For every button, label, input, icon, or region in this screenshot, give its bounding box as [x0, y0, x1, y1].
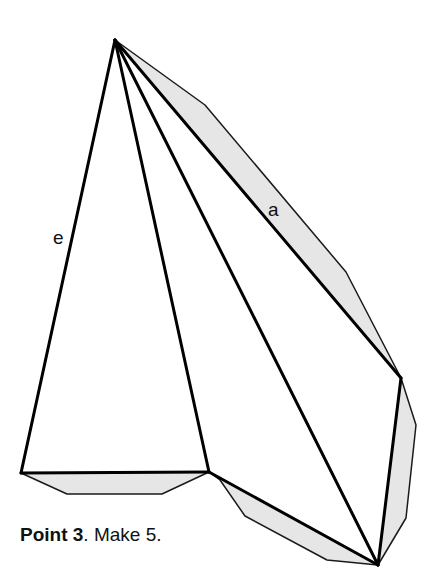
net-diagram: a e	[0, 0, 433, 587]
edge-e	[21, 40, 115, 473]
edge-bottom	[21, 472, 209, 473]
edge-lower	[209, 472, 378, 565]
edge-label-e: e	[53, 227, 64, 248]
caption-step: Point 3	[20, 524, 83, 545]
caption-text: . Make 5.	[83, 524, 161, 545]
edge-label-a: a	[268, 199, 279, 220]
glue-tab-bottom-left	[21, 472, 209, 494]
instruction-caption: Point 3. Make 5.	[20, 524, 162, 546]
